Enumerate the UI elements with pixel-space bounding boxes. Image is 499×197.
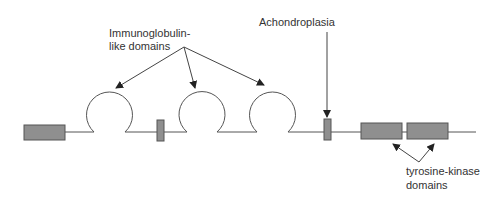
tyrosine-kinase-box-1 bbox=[361, 123, 402, 139]
ig-label-line2: like domains bbox=[109, 40, 171, 52]
signal-peptide-box bbox=[24, 125, 65, 140]
ig-arrow-1 bbox=[116, 47, 184, 88]
achondroplasia-label: Achondroplasia bbox=[259, 16, 336, 28]
protein-domain-diagram: Immunoglobulin- like domains Achondropla… bbox=[0, 0, 499, 197]
ig-arrow-3 bbox=[184, 47, 264, 85]
ig-domain-3-loop bbox=[250, 92, 296, 132]
tk-arrow-2 bbox=[419, 144, 434, 162]
acid-box bbox=[157, 120, 164, 141]
ig-domain-1-loop bbox=[87, 92, 133, 132]
ig-domain-2-loop bbox=[179, 92, 225, 132]
tk-label-line2: domains bbox=[406, 179, 448, 191]
transmembrane-box bbox=[324, 119, 331, 140]
tk-label-line1: tyrosine-kinase bbox=[406, 165, 480, 177]
tyrosine-kinase-box-2 bbox=[407, 123, 448, 139]
tk-arrow-1 bbox=[393, 144, 419, 162]
ig-label-line1: Immunoglobulin- bbox=[109, 27, 191, 39]
ig-arrow-2 bbox=[184, 47, 195, 88]
